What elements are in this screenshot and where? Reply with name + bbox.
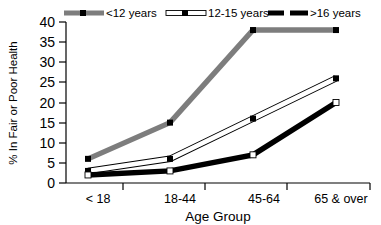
y-axis-title: % In Fair or Poor Health: [7, 41, 19, 164]
y-tick-label-20: 20: [39, 95, 55, 111]
x-axis-title: Age Group: [185, 209, 250, 224]
x-category-label-1: 18-44: [164, 192, 196, 206]
data-point-marker: [250, 116, 256, 122]
legend-label-2: >16 years: [310, 7, 361, 19]
y-tick-label-40: 40: [39, 14, 55, 30]
y-tick-label-30: 30: [39, 54, 55, 70]
line-chart: <12 years 12-15 years >16 years 40 35: [0, 0, 381, 225]
data-point-marker: [333, 100, 339, 106]
data-point-marker: [250, 27, 256, 33]
data-point-marker: [167, 156, 173, 162]
legend-label-1: 12-15 years: [208, 7, 269, 19]
y-tick-label-25: 25: [39, 74, 55, 90]
x-category-label-0: < 18: [86, 192, 111, 206]
chart-legend: <12 years 12-15 years >16 years: [64, 7, 361, 19]
chart-container: <12 years 12-15 years >16 years 40 35: [0, 0, 381, 225]
y-tick-label-5: 5: [47, 155, 55, 171]
data-point-marker: [85, 172, 91, 178]
data-point-marker: [250, 152, 256, 158]
x-category-label-2: 45-64: [248, 192, 280, 206]
y-tick-label-15: 15: [39, 115, 55, 131]
data-point-marker: [167, 120, 173, 126]
y-tick-label-0: 0: [47, 175, 55, 191]
legend-swatch-marker-2: [284, 10, 290, 16]
data-point-marker: [333, 75, 339, 81]
data-point-marker: [333, 27, 339, 33]
x-category-label-3: 65 & over: [314, 192, 368, 206]
legend-swatch-marker-0: [80, 10, 86, 16]
legend-label-0: <12 years: [106, 7, 157, 19]
legend-swatch-marker-1: [182, 10, 188, 16]
data-point-marker: [167, 168, 173, 174]
y-tick-label-35: 35: [39, 34, 55, 50]
data-point-marker: [85, 156, 91, 162]
y-tick-label-10: 10: [39, 135, 55, 151]
